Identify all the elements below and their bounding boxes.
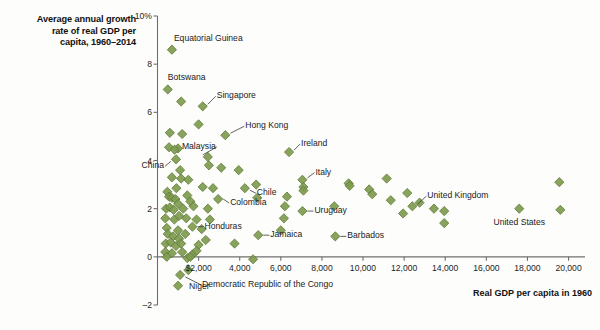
leader-line: [208, 96, 216, 104]
axis-lines: [154, 16, 586, 305]
point-label: Jamaica: [270, 230, 302, 239]
data-point: [279, 214, 288, 223]
data-point: [440, 206, 449, 215]
y-axis-tick-label: 2: [112, 204, 152, 214]
y-axis-tick-label: 6: [112, 107, 152, 117]
data-point: [217, 163, 226, 172]
data-point: [240, 184, 249, 193]
point-label: Botswana: [168, 73, 206, 82]
x-axis-tick-label: 12,000: [391, 263, 417, 273]
point-label: Barbados: [347, 231, 384, 240]
x-axis-tick-label: 18,000: [514, 263, 540, 273]
data-points: [161, 45, 565, 290]
point-label: Democratic Republic of the Congo: [202, 280, 333, 289]
data-point: [176, 166, 185, 175]
point-label: Equatorial Guinea: [174, 34, 243, 43]
point-label: Singapore: [217, 91, 256, 100]
point-label: Italy: [315, 168, 331, 177]
y-axis-tick-label: 0: [112, 252, 152, 262]
data-point: [177, 174, 186, 183]
data-point: [165, 128, 174, 137]
x-axis-tick-label: 6,000: [270, 263, 292, 273]
data-point: [194, 120, 203, 129]
leader-line: [250, 190, 256, 193]
data-point: [382, 174, 391, 183]
data-point: [556, 205, 565, 214]
data-point: [204, 161, 213, 170]
data-point: [176, 270, 185, 279]
x-axis-tick-label: 8,000: [311, 263, 333, 273]
data-point: [515, 204, 524, 213]
data-point: [201, 235, 210, 244]
leader-line: [294, 144, 300, 150]
data-point: [198, 182, 207, 191]
point-label: United States: [493, 218, 545, 227]
y-axis-tick-label: 8: [112, 59, 152, 69]
data-point: [282, 192, 291, 201]
point-label: Uruguay: [314, 206, 346, 215]
x-axis-tick-label: 20,000: [555, 263, 581, 273]
data-point: [440, 219, 449, 228]
leader-line: [223, 199, 229, 203]
data-point: [254, 231, 263, 240]
point-label: Colombia: [230, 198, 266, 207]
data-point: [399, 209, 408, 218]
leader-line: [307, 173, 314, 178]
point-label: Ireland: [301, 139, 327, 148]
chart-figure: Average annual growth rate of real GDP p…: [0, 0, 600, 330]
data-point: [221, 131, 230, 140]
data-point: [172, 184, 181, 193]
data-point: [198, 102, 207, 111]
x-axis-title: Real GDP per capita in 1960: [473, 288, 592, 298]
data-point: [184, 175, 193, 184]
data-point: [386, 196, 395, 205]
data-point: [284, 147, 293, 156]
y-axis-tick-label: –2: [112, 300, 152, 310]
data-point: [177, 97, 186, 106]
data-point: [429, 204, 438, 213]
data-point: [331, 232, 340, 241]
data-point: [178, 129, 187, 138]
point-label: China: [142, 161, 164, 170]
data-point: [280, 202, 289, 211]
leader-line: [230, 126, 244, 133]
point-label: Honduras: [204, 222, 241, 231]
data-point: [234, 166, 243, 175]
x-axis-tick-label: 10,000: [350, 263, 376, 273]
data-point: [163, 85, 172, 94]
data-point: [298, 206, 307, 215]
data-point: [230, 239, 239, 248]
data-point: [208, 184, 217, 193]
leader-line: [165, 161, 171, 166]
x-axis-tick-label: $2,000: [185, 263, 211, 273]
data-point: [214, 194, 223, 203]
x-axis-tick-label: 16,000: [473, 263, 499, 273]
y-axis-tick-label: 10%: [112, 11, 152, 21]
x-axis-tick-label: 14,000: [432, 263, 458, 273]
data-point: [167, 173, 176, 182]
point-label: Niger: [189, 282, 210, 291]
data-point: [167, 45, 176, 54]
point-label: Hong Kong: [245, 121, 288, 130]
point-label: Malaysia: [182, 142, 216, 151]
point-label: United Kingdom: [427, 191, 488, 200]
data-point: [203, 204, 212, 213]
data-point: [171, 155, 180, 164]
data-point: [555, 178, 564, 187]
x-axis-tick-label: 4,000: [229, 263, 251, 273]
data-point: [161, 214, 170, 223]
data-point: [403, 188, 412, 197]
point-label: Chile: [257, 188, 277, 197]
data-point: [173, 281, 182, 290]
